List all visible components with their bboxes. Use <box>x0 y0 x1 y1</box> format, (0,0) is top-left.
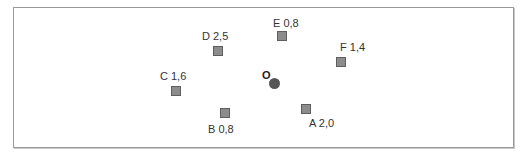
point-d-marker <box>213 46 223 56</box>
point-b-marker <box>220 108 230 118</box>
point-f-label: F 1,4 <box>340 41 365 53</box>
point-a-label: A 2,0 <box>309 117 334 129</box>
origin-point-icon <box>269 78 280 89</box>
point-c-marker <box>171 86 181 96</box>
point-e-label: E 0,8 <box>273 17 299 29</box>
point-c-label: C 1,6 <box>160 70 186 82</box>
point-b-label: B 0,8 <box>208 123 234 135</box>
point-a-marker <box>301 104 311 114</box>
point-e-marker <box>277 31 287 41</box>
point-d-label: D 2,5 <box>202 30 228 42</box>
point-f-marker <box>336 57 346 67</box>
